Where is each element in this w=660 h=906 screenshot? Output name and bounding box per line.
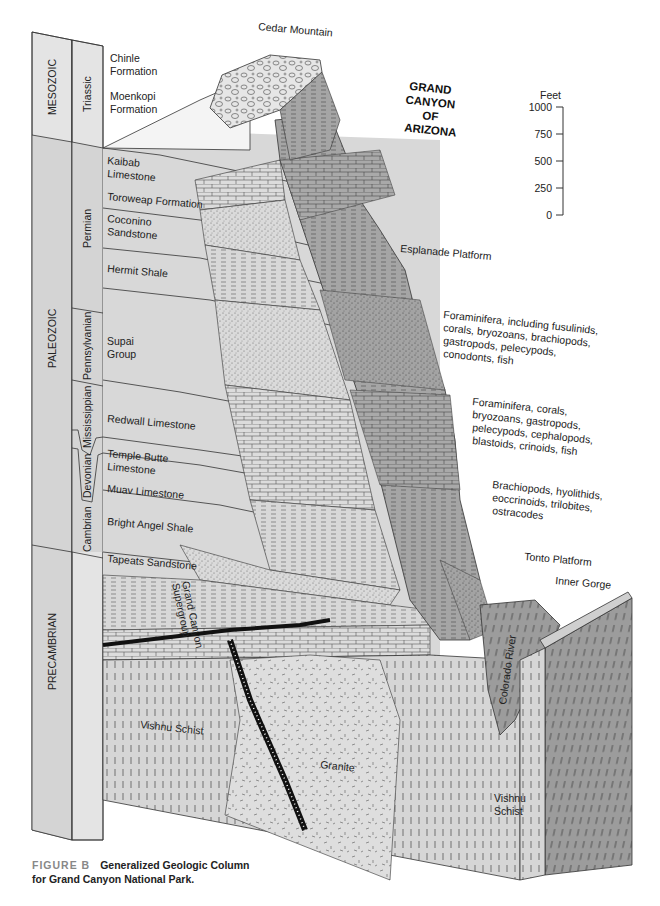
svg-text:250: 250 (534, 182, 552, 194)
era-label-mesozoic: MESOZOIC (46, 59, 58, 115)
svg-text:CANYON: CANYON (405, 93, 456, 110)
figure-caption: FIGURE BGeneralized Geologic Column for … (32, 858, 250, 886)
formation-label: Formation (110, 103, 157, 115)
caption-line1: Generalized Geologic Column (100, 859, 249, 871)
formation-label: Supai (107, 335, 134, 347)
fossil-note-supai: Foraminifera, including fusulinids, cora… (443, 308, 599, 366)
formation-label: Chinle (110, 52, 140, 64)
period-label-devonian: Devonian (81, 453, 93, 498)
diagram-title: GRAND CANYON OF ARIZONA (404, 80, 457, 139)
tonto-platform-label: Tonto Platform (524, 550, 593, 568)
period-label-permian: Permian (81, 209, 93, 248)
svg-text:0: 0 (546, 209, 552, 221)
period-label-triassic: Triassic (81, 76, 93, 112)
period-label-cambrian: Cambrian (81, 506, 93, 552)
formation-label: Moenkopi (110, 90, 156, 102)
geologic-block-diagram: MESOZOIC PALEOZOIC PRECAMBRIAN Triassic … (0, 0, 660, 906)
svg-text:OF: OF (422, 109, 439, 123)
svg-text:500: 500 (534, 155, 552, 167)
svg-text:ARIZONA: ARIZONA (404, 121, 457, 138)
figure-number: FIGURE B (32, 859, 90, 871)
vishnu-schist-right-label: Schist (494, 805, 523, 817)
cedar-mountain-label: Cedar Mountain (258, 20, 334, 38)
svg-text:Feet: Feet (540, 89, 561, 101)
scale-bar: Feet 1000 750 500 250 0 (529, 89, 563, 221)
era-label-precambrian: PRECAMBRIAN (46, 613, 58, 690)
fossil-note-redwall: Foraminifera, corals, bryozoans, gastrop… (472, 395, 594, 457)
formation-label: Group (107, 348, 136, 360)
era-label-paleozoic: PALEOZOIC (46, 308, 58, 368)
formation-label: Formation (110, 65, 157, 77)
svg-text:1000: 1000 (529, 101, 553, 113)
inner-gorge-label: Inner Gorge (555, 574, 612, 591)
fossil-note-tonto: Brachiopods, hyolithids, eoccrinoids, tr… (492, 478, 604, 521)
svg-text:750: 750 (534, 128, 552, 140)
basement (103, 620, 520, 880)
period-label-mississippian: Mississippian (81, 385, 93, 448)
caption-line2: for Grand Canyon National Park. (32, 872, 250, 886)
era-column (32, 32, 72, 840)
vishnu-schist-right-label: Vishnu (494, 792, 526, 804)
period-label-pennsylvanian: Pennsylvanian (81, 312, 93, 380)
